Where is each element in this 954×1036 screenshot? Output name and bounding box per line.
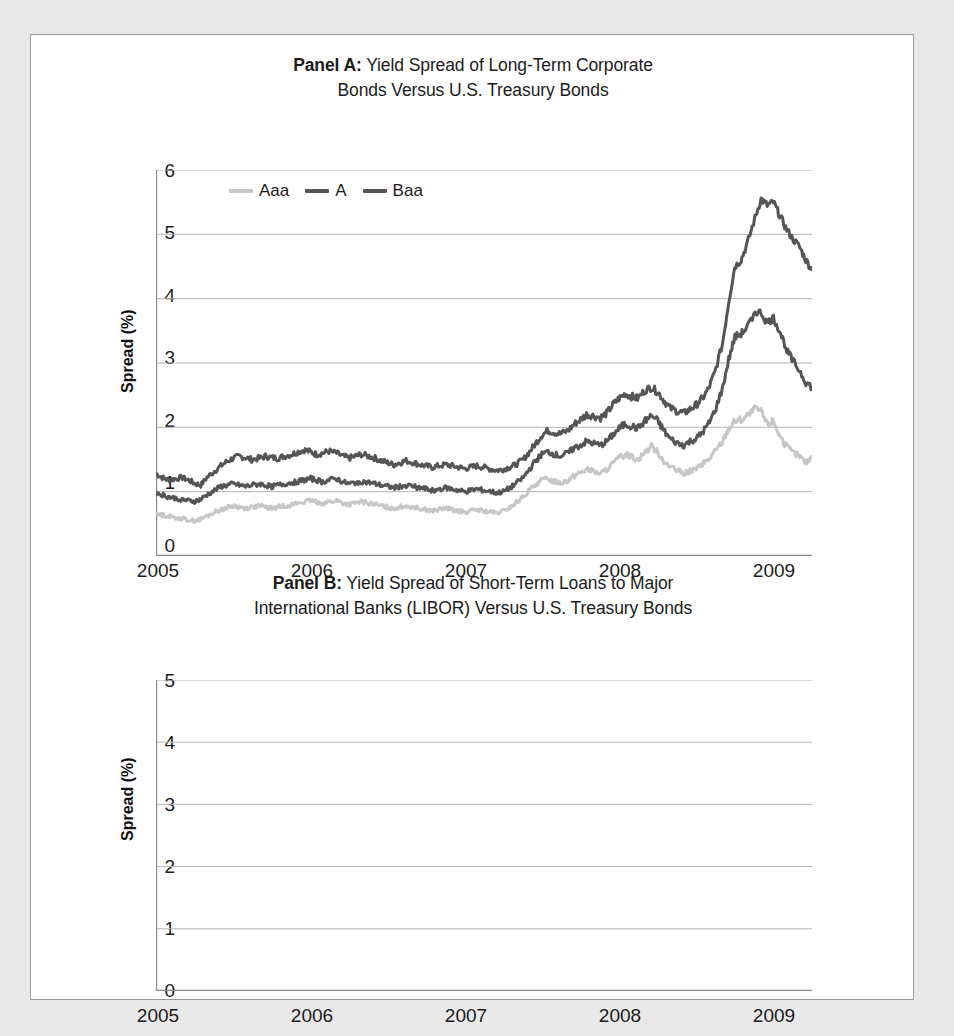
- panel-b-xtick-2008: 2008: [590, 1006, 650, 1025]
- panel-b-plot-area: [156, 680, 812, 991]
- panel-b-xtick-2009: 2009: [744, 1006, 804, 1025]
- panel-b-xtick-2005: 2005: [128, 1006, 188, 1025]
- panel-b-xtick-2007: 2007: [436, 1006, 496, 1025]
- panel-b-title-label: Panel B:: [273, 573, 342, 593]
- figure-frame: Panel A: Yield Spread of Long-Term Corpo…: [30, 34, 914, 1000]
- legend-label-aaa: Aaa: [259, 181, 289, 201]
- legend-label-baa: Baa: [393, 181, 423, 201]
- legend-swatch-a: [305, 189, 329, 193]
- panel-b-title-line2: International Banks (LIBOR) Versus U.S. …: [91, 596, 855, 621]
- legend-item-baa: Baa: [363, 181, 423, 201]
- legend-swatch-aaa: [229, 189, 253, 193]
- panel-a-title: Panel A: Yield Spread of Long-Term Corpo…: [31, 53, 915, 103]
- panel-a-y-axis-title: Spread (%): [119, 309, 137, 393]
- legend-swatch-baa: [363, 189, 387, 193]
- panel-a-chart-svg: [156, 170, 812, 556]
- legend-item-aaa: Aaa: [229, 181, 289, 201]
- panel-b-title: Panel B: Yield Spread of Short-Term Loan…: [31, 571, 915, 621]
- legend-label-a: A: [335, 181, 346, 201]
- panel-b-xtick-2006: 2006: [282, 1006, 342, 1025]
- panel-a-title-line2: Bonds Versus U.S. Treasury Bonds: [91, 78, 855, 103]
- panel-a-title-text: Yield Spread of Long-Term Corporate: [362, 55, 653, 75]
- panel-b: Panel B: Yield Spread of Short-Term Loan…: [31, 571, 915, 1001]
- panel-a-title-label: Panel A:: [293, 55, 362, 75]
- panel-b-title-text: Yield Spread of Short-Term Loans to Majo…: [342, 573, 673, 593]
- panel-a-legend: Aaa A Baa: [229, 181, 423, 201]
- panel-a: Panel A: Yield Spread of Long-Term Corpo…: [31, 53, 915, 571]
- panel-b-chart-svg: [156, 680, 812, 991]
- legend-item-a: A: [305, 181, 346, 201]
- panel-b-y-axis-title: Spread (%): [119, 757, 137, 841]
- panel-a-plot-area: [156, 170, 812, 556]
